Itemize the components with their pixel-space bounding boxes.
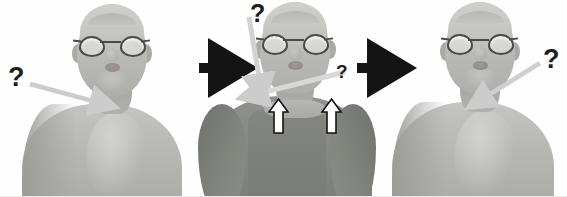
shirt-sleeve-right <box>330 104 376 197</box>
bottom-border <box>0 196 567 197</box>
shirt-sleeve-left <box>198 104 246 197</box>
chin <box>96 70 128 92</box>
glasses-bridge <box>100 41 121 43</box>
lips <box>473 61 488 70</box>
torso-highlight <box>454 110 518 197</box>
nose <box>473 46 487 60</box>
shirt-center-panel <box>248 110 326 197</box>
question-mark-top: ? <box>250 1 265 26</box>
torso-shadow-left <box>22 104 76 197</box>
figure-stage: ? ? ? ? <box>0 0 567 197</box>
torso-shadow-left <box>392 102 446 197</box>
glasses-bridge <box>468 39 489 41</box>
glasses-lens-right <box>303 34 329 55</box>
lips <box>105 63 120 72</box>
lips <box>288 61 303 70</box>
glasses-lens-left <box>79 36 105 57</box>
torso-highlight <box>86 112 148 197</box>
nose <box>105 48 119 62</box>
panel-during-dressing <box>188 0 380 197</box>
glasses-lens-left <box>262 34 288 55</box>
glasses-lens-right <box>120 36 146 57</box>
glasses-temple-left <box>73 39 81 42</box>
shirt-collar <box>264 100 326 118</box>
glasses-lens-left <box>447 34 473 55</box>
character-panel-3 <box>378 0 567 197</box>
question-mark-small-right: ? <box>336 62 348 81</box>
nose <box>288 46 302 60</box>
panel-before-dressing <box>0 0 190 197</box>
glasses-lens-right <box>488 34 514 55</box>
character-panel-1 <box>0 0 190 197</box>
character-panel-2 <box>188 0 380 197</box>
question-mark-right: ? <box>543 46 560 73</box>
glasses-temple-left <box>441 37 449 40</box>
question-mark-left: ? <box>8 64 25 91</box>
panel-after-removal <box>378 0 567 197</box>
chin <box>464 68 496 90</box>
glasses-bridge <box>283 39 304 41</box>
